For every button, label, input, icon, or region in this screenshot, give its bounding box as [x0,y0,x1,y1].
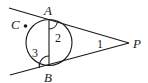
label-c: C [11,17,20,32]
angle-label-1: 1 [97,37,103,51]
point-c-dot [24,24,28,28]
angle-label-3: 3 [32,46,38,60]
label-p: P [132,36,141,51]
label-b: B [44,70,52,83]
tangent-line-pb [10,43,129,75]
label-a: A [43,3,52,18]
geometry-diagram: A B C P 1 2 3 [0,0,148,83]
angle-2-arc [49,22,58,29]
angle-label-2: 2 [55,31,61,45]
